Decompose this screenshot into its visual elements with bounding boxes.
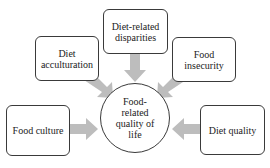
arrow-quality-to-center [172,118,200,140]
node-diet-related-disparities: Diet-related disparities [103,9,168,54]
node-diet-acculturation: Diet acculturation [35,36,99,81]
center-node-food-related-quality-of-life: Food- related quality of life [100,83,170,153]
node-label: Diet acculturation [41,48,93,70]
node-food-insecurity: Food insecurity [172,37,236,82]
node-diet-quality: Diet quality [200,105,265,155]
node-label: Food culture [13,125,64,136]
node-label: Diet quality [209,125,257,136]
node-food-culture: Food culture [6,105,70,156]
arrow-culture-to-center [70,118,98,140]
arrow-disparities-to-center [124,53,146,82]
center-label: Food- related quality of life [116,96,155,140]
node-label: Food insecurity [184,49,223,71]
node-label: Diet-related disparities [112,21,160,43]
